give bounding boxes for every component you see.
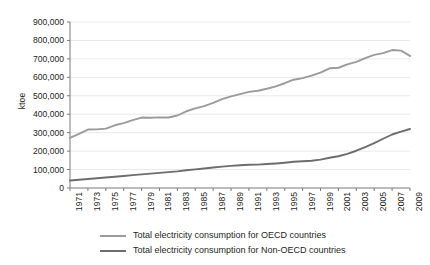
x-tick-label: 1993	[272, 192, 281, 226]
x-tick-label: 1995	[290, 192, 299, 226]
legend-label-oecd: Total electricity consumption for OECD c…	[133, 230, 326, 241]
x-tick-label: 1987	[218, 192, 227, 226]
x-tick-label: 1999	[326, 192, 335, 226]
x-tick-label: 2001	[343, 192, 352, 226]
x-tick-label: 2009	[415, 192, 424, 226]
x-tick-label: 1981	[164, 192, 173, 226]
x-tick-label: 2007	[397, 192, 406, 226]
legend-swatch-oecd	[100, 235, 126, 237]
chart-legend: Total electricity consumption for OECD c…	[100, 228, 420, 258]
x-tick-label: 1979	[147, 192, 156, 226]
legend-swatch-non-oecd	[100, 250, 126, 252]
x-axis-tick-labels: 1971197319751977197919811983198519871989…	[0, 0, 430, 265]
x-tick-label: 1997	[308, 192, 317, 226]
x-tick-label: 1983	[182, 192, 191, 226]
legend-label-non-oecd: Total electricity consumption for Non-OE…	[133, 245, 346, 256]
x-tick-label: 1991	[254, 192, 263, 226]
x-tick-label: 1977	[129, 192, 138, 226]
x-tick-label: 1973	[93, 192, 102, 226]
legend-item-non-oecd: Total electricity consumption for Non-OE…	[100, 243, 420, 258]
legend-item-oecd: Total electricity consumption for OECD c…	[100, 228, 420, 243]
x-tick-label: 1985	[200, 192, 209, 226]
x-tick-label: 2003	[361, 192, 370, 226]
chart-figure: ktoe 0100,000200,000300,000400,000500,00…	[0, 0, 430, 265]
x-tick-label: 1975	[111, 192, 120, 226]
x-tick-label: 1971	[75, 192, 84, 226]
x-tick-label: 1989	[236, 192, 245, 226]
x-tick-label: 2005	[379, 192, 388, 226]
